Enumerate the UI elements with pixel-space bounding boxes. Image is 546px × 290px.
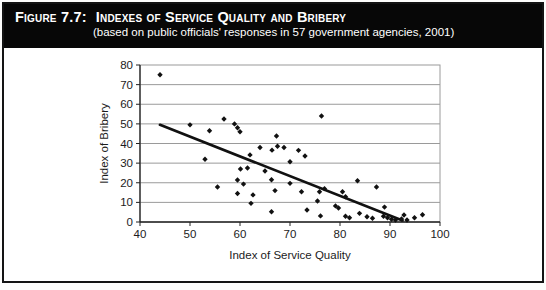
y-tick-label: 50 [120,118,133,130]
x-tick-label: 80 [334,228,347,240]
scatter-chart: 40506070809010001020304050607080Index of… [0,48,546,283]
x-tick-label: 90 [384,228,397,240]
x-tick-label: 70 [284,228,297,240]
y-tick-label: 40 [120,138,133,150]
y-tick-label: 80 [120,59,133,71]
figure-title-text: Indexes of Service Quality and Bribery [96,9,346,25]
y-tick-label: 60 [120,98,133,110]
x-tick-label: 60 [234,228,247,240]
figure-title-bar: Figure 7.7:Indexes of Service Quality an… [4,4,542,48]
x-tick-label: 40 [134,228,147,240]
figure-number-label: Figure 7.7: [15,9,87,25]
figure-title: Figure 7.7:Indexes of Service Quality an… [15,9,542,25]
y-tick-label: 30 [120,157,133,169]
x-axis-title: Index of Service Quality [229,249,351,261]
y-tick-label: 0 [127,216,133,228]
y-axis-title: Index of Bribery [98,103,110,184]
y-tick-label: 70 [120,79,133,91]
x-tick-label: 50 [184,228,197,240]
x-tick-label: 100 [430,228,449,240]
figure-subtitle: (based on public officials' responses in… [93,26,542,38]
y-tick-label: 20 [120,177,133,189]
y-tick-label: 10 [120,196,133,208]
